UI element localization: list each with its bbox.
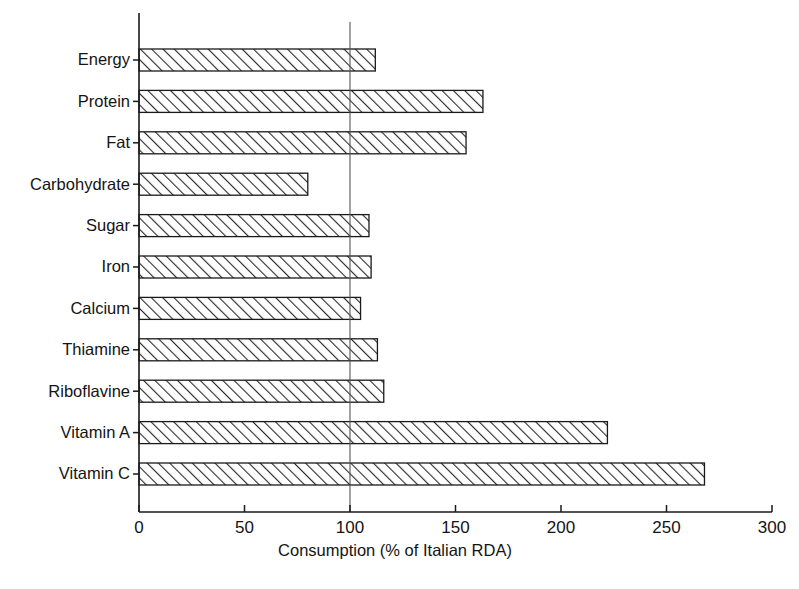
x-tick-label-200: 200 bbox=[547, 518, 575, 537]
bars-group bbox=[139, 49, 704, 485]
bar-riboflavine bbox=[139, 380, 384, 402]
x-tick-label-250: 250 bbox=[652, 518, 680, 537]
bar-energy bbox=[139, 49, 375, 71]
category-label-thiamine: Thiamine bbox=[62, 340, 130, 358]
x-tick-label-0: 0 bbox=[134, 518, 143, 537]
category-label-vitamin-a: Vitamin A bbox=[61, 423, 130, 441]
category-label-calcium: Calcium bbox=[70, 299, 130, 317]
bar-sugar bbox=[139, 215, 369, 237]
category-label-energy: Energy bbox=[78, 50, 131, 68]
category-label-protein: Protein bbox=[78, 92, 130, 110]
x-axis-title: Consumption (% of Italian RDA) bbox=[278, 541, 512, 559]
category-label-iron: Iron bbox=[102, 257, 130, 275]
bar-chart: EnergyProteinFatCarbohydrateSugarIronCal… bbox=[0, 0, 799, 589]
bar-protein bbox=[139, 90, 483, 112]
bar-thiamine bbox=[139, 339, 377, 361]
x-tick-marks bbox=[139, 505, 772, 512]
bar-iron bbox=[139, 256, 371, 278]
bar-fat bbox=[139, 132, 466, 154]
x-tick-label-100: 100 bbox=[336, 518, 364, 537]
bar-carbohydrate bbox=[139, 173, 308, 195]
x-tick-label-50: 50 bbox=[235, 518, 254, 537]
category-label-carbohydrate: Carbohydrate bbox=[30, 175, 130, 193]
bar-vitamin-c bbox=[139, 463, 704, 485]
category-label-fat: Fat bbox=[106, 133, 130, 151]
category-label-riboflavine: Riboflavine bbox=[48, 382, 130, 400]
chart-container: EnergyProteinFatCarbohydrateSugarIronCal… bbox=[0, 0, 799, 589]
x-tick-label-150: 150 bbox=[441, 518, 469, 537]
category-label-sugar: Sugar bbox=[86, 216, 131, 234]
bar-calcium bbox=[139, 297, 361, 319]
category-labels: EnergyProteinFatCarbohydrateSugarIronCal… bbox=[30, 50, 139, 482]
x-tick-label-300: 300 bbox=[758, 518, 786, 537]
x-tick-labels: 050100150200250300 bbox=[134, 518, 786, 537]
bar-vitamin-a bbox=[139, 422, 607, 444]
category-label-vitamin-c: Vitamin C bbox=[59, 464, 130, 482]
